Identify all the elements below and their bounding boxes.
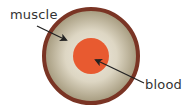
blood-lumen bbox=[73, 38, 109, 74]
muscle-label: muscle bbox=[10, 8, 58, 21]
diagram: muscle blood bbox=[0, 0, 195, 112]
blood-label: blood bbox=[145, 78, 182, 91]
